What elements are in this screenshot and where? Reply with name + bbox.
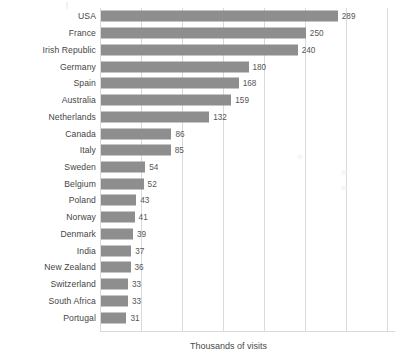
- bar: [101, 145, 171, 156]
- bar: [101, 111, 209, 122]
- x-axis-label: Thousands of visits: [190, 341, 267, 351]
- bar: [101, 78, 239, 89]
- bar-value-label: 52: [148, 179, 157, 188]
- bar-value-label: 36: [135, 263, 144, 272]
- bar-row: Irish Republic240: [100, 41, 395, 58]
- bar: [101, 95, 231, 106]
- bar-row: USA289: [100, 8, 395, 25]
- bar-row: Sweden54: [100, 159, 395, 176]
- bar-row: Spain168: [100, 75, 395, 92]
- watermark-artifact: ✳: [340, 168, 348, 178]
- watermark-artifact: ✳: [340, 183, 348, 193]
- bar-value-label: 41: [139, 213, 148, 222]
- bar: [101, 44, 298, 55]
- category-label: Denmark: [60, 229, 96, 239]
- bar-value-label: 37: [135, 246, 144, 255]
- bar-value-label: 33: [132, 280, 141, 289]
- category-label: India: [77, 246, 96, 256]
- bar-value-label: 159: [235, 96, 249, 105]
- bar: [101, 178, 144, 189]
- bar-row: Italy85: [100, 142, 395, 159]
- category-label: Italy: [80, 145, 96, 155]
- category-label: Poland: [69, 195, 96, 205]
- bar-row: Germany180: [100, 58, 395, 75]
- bar-row: France250: [100, 25, 395, 42]
- category-label: Australia: [62, 95, 96, 105]
- category-label: Belgium: [64, 179, 96, 189]
- category-label: Portugal: [63, 313, 96, 323]
- bar-value-label: 43: [140, 196, 149, 205]
- bar-row: Norway41: [100, 209, 395, 226]
- bar: [101, 61, 249, 72]
- category-label: USA: [78, 11, 96, 21]
- category-label: France: [69, 28, 96, 38]
- bar-value-label: 33: [132, 296, 141, 305]
- bar-row: Canada86: [100, 125, 395, 142]
- watermark-artifact: ✳: [296, 152, 304, 162]
- bar-row: Denmark39: [100, 226, 395, 243]
- bar-value-label: 86: [175, 129, 184, 138]
- bar-value-label: 85: [175, 146, 184, 155]
- plot-area: USA289France250Irish Republic240Germany1…: [100, 8, 395, 332]
- bar: [101, 195, 136, 206]
- scan-artifact: [66, 2, 68, 9]
- bar: [101, 11, 338, 22]
- bar-value-label: 289: [342, 12, 356, 21]
- bar-row: Australia159: [100, 92, 395, 109]
- category-label: Canada: [65, 129, 96, 139]
- category-label: Germany: [60, 62, 96, 72]
- category-label: South Africa: [48, 296, 96, 306]
- bar-value-label: 240: [302, 45, 316, 54]
- bar-row: India37: [100, 242, 395, 259]
- bar: [101, 312, 126, 323]
- bar: [101, 212, 135, 223]
- bar-value-label: 132: [213, 112, 227, 121]
- bar-row: Belgium52: [100, 175, 395, 192]
- bar-row: Poland43: [100, 192, 395, 209]
- bar: [101, 295, 128, 306]
- category-label: Irish Republic: [43, 45, 96, 55]
- bar-chart: USA289France250Irish Republic240Germany1…: [0, 0, 403, 354]
- category-label: Norway: [66, 212, 96, 222]
- bar-value-label: 54: [149, 162, 158, 171]
- category-label: Switzerland: [50, 279, 96, 289]
- bar: [101, 228, 133, 239]
- bar-row: Switzerland33: [100, 276, 395, 293]
- category-label: Netherlands: [49, 112, 96, 122]
- bar-row: Netherlands132: [100, 108, 395, 125]
- category-label: Sweden: [64, 162, 96, 172]
- bar-value-label: 39: [137, 229, 146, 238]
- bar-value-label: 250: [310, 29, 324, 38]
- bar: [101, 262, 131, 273]
- category-label: Spain: [74, 78, 96, 88]
- bar: [101, 161, 145, 172]
- category-label: New Zealand: [44, 262, 96, 272]
- bar: [101, 28, 306, 39]
- bar-row: Portugal31: [100, 309, 395, 326]
- bar-value-label: 180: [253, 62, 267, 71]
- bar-value-label: 168: [243, 79, 257, 88]
- bar-row: South Africa33: [100, 293, 395, 310]
- bar: [101, 279, 128, 290]
- bar-row: New Zealand36: [100, 259, 395, 276]
- bar: [101, 128, 171, 139]
- bar-value-label: 31: [130, 313, 139, 322]
- bar-rows: USA289France250Irish Republic240Germany1…: [100, 8, 395, 332]
- bar: [101, 245, 131, 256]
